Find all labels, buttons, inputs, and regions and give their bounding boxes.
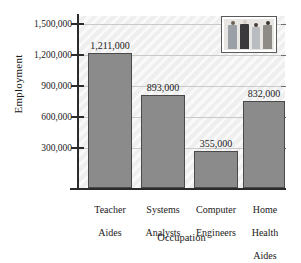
y-axis-tick-labels: 1,500,000 1,200,000 900,000 600,000 300,… (14, 0, 72, 255)
y-tick-mark-right (281, 55, 286, 56)
y-tick-mark (71, 54, 84, 56)
bar-value-label: 832,000 (234, 88, 294, 99)
y-tick-label: 1,500,000 (14, 20, 72, 30)
cat-line: Aides (240, 250, 290, 262)
bar-computer-engineers (194, 151, 238, 188)
y-tick-label: 900,000 (14, 82, 72, 92)
worker-body (252, 27, 260, 49)
y-tick-label: 1,200,000 (14, 51, 72, 61)
y-tick-mark-right (281, 86, 286, 87)
y-tick-mark (71, 116, 84, 118)
cat-line: Home (240, 204, 290, 216)
worker-body (240, 24, 249, 49)
bar-value-label: 1,211,000 (76, 40, 144, 51)
x-axis-line (70, 188, 286, 190)
y-tick-mark (71, 23, 84, 25)
bar-home-health-aides (243, 101, 285, 188)
cat-line: Teacher (80, 204, 140, 216)
bar-teacher-aides (88, 53, 132, 188)
worker-figure-icon (252, 23, 260, 49)
bar-value-label: 355,000 (186, 138, 246, 149)
workers-photo-image (224, 19, 274, 50)
workers-photo-inset (221, 16, 277, 53)
y-tick-mark (71, 147, 84, 149)
cat-line: Computer (185, 204, 247, 216)
x-axis-title: Occupation (78, 232, 285, 243)
x-category-label-home-health-aides: Home Health Aides (240, 192, 290, 263)
worker-body (263, 25, 272, 49)
y-tick-label: 300,000 (14, 144, 72, 154)
worker-figure-icon (228, 21, 237, 49)
bar-value-label: 893,000 (133, 82, 193, 93)
cat-line: Systems (133, 204, 193, 216)
worker-body (228, 25, 237, 49)
y-tick-mark-right (281, 24, 286, 25)
worker-figure-icon (263, 21, 272, 49)
bar-systems-analysts (141, 95, 185, 188)
worker-figure-icon (240, 20, 249, 49)
y-tick-label: 600,000 (14, 113, 72, 123)
y-tick-mark (71, 85, 84, 87)
